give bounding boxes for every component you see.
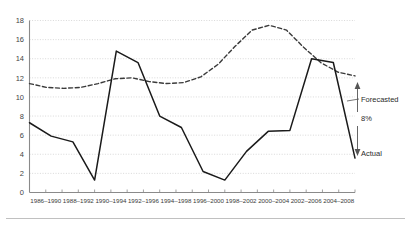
y-tick-label: 18	[16, 16, 24, 25]
y-tick-label: 0	[20, 188, 24, 197]
x-tick-label: 2002–2006	[291, 197, 323, 204]
x-tick-label: 1998–2002	[226, 197, 258, 204]
forecasted-label: Forecasted	[361, 95, 399, 104]
x-tick-label: 1986–1990	[30, 197, 62, 204]
actual-label: Actual	[361, 149, 382, 158]
x-axis-tick-labels: 1986–19901988–19921990–19941992–19961994…	[30, 197, 354, 204]
y-tick-label: 14	[16, 54, 24, 63]
x-tick-label: 1996–2000	[193, 197, 225, 204]
x-tick-label: 2004–2008	[323, 197, 355, 204]
x-tick-label: 1992–1996	[128, 197, 160, 204]
x-tick-label: 2000–2004	[258, 197, 290, 204]
y-tick-label: 4	[20, 150, 24, 159]
y-tick-label: 8	[20, 112, 24, 121]
y-tick-label: 12	[16, 74, 24, 83]
line-chart: 024681012141618 1986–19901988–19921990–1…	[0, 0, 411, 225]
x-tick-label: 1990–1994	[95, 197, 127, 204]
y-tick-label: 6	[20, 131, 24, 140]
y-tick-label: 10	[16, 93, 24, 102]
x-tick-label: 1988–1992	[63, 197, 95, 204]
gap-label: 8%	[361, 114, 372, 123]
x-tick-label: 1994–1998	[160, 197, 192, 204]
y-tick-label: 2	[20, 169, 24, 178]
y-tick-label: 16	[16, 35, 24, 44]
